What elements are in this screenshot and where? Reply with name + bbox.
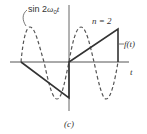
t-axis-label: t bbox=[130, 67, 133, 77]
n-label: n = 2 bbox=[92, 16, 112, 26]
sine-label: sin 2ω0t bbox=[28, 4, 60, 15]
sine-label-leader bbox=[23, 10, 27, 26]
f-label: f(t) bbox=[124, 39, 135, 49]
fourier-diagram: sin 2ω0t n = 2 f(t) t (c) bbox=[0, 0, 147, 134]
caption: (c) bbox=[64, 119, 74, 129]
